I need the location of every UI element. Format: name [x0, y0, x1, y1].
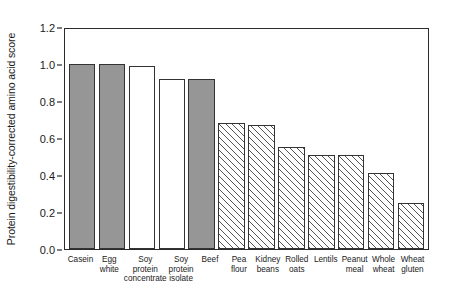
y-axis-tick-label: 0.4: [40, 170, 55, 182]
x-axis-labels: CaseinEggwhiteSoyproteinconcentrateSoypr…: [64, 252, 429, 306]
x-axis-label-line: Whole: [369, 255, 398, 265]
x-axis-label-pea-flour: Peaflour: [224, 252, 253, 306]
bars-container: [65, 29, 428, 249]
x-axis-label-wheat-gluten: Wheatgluten: [398, 252, 427, 306]
x-axis-label-line: Soy: [124, 255, 167, 265]
y-axis-tick-mark: [57, 139, 62, 140]
x-axis-label-line: beans: [253, 265, 282, 275]
bar-slot: [217, 29, 247, 249]
x-axis-label-line: white: [95, 265, 124, 275]
x-axis-label-line: wheat: [369, 265, 398, 275]
x-axis-label-line: Peanut: [340, 255, 369, 265]
x-axis-label-line: meal: [340, 265, 369, 275]
bar-slot: [366, 29, 396, 249]
y-axis-title: Protein digestibility-corrected amino ac…: [5, 33, 17, 245]
bar-egg-white: [99, 64, 125, 249]
y-axis-tick-label: 0.2: [40, 207, 55, 219]
y-axis-title-container: Protein digestibility-corrected amino ac…: [0, 28, 22, 250]
bar-soy-protein-concentrate: [129, 66, 155, 249]
bar-slot: [187, 29, 217, 249]
y-axis-tick-mark: [57, 176, 62, 177]
x-axis-label-line: Rolled: [282, 255, 311, 265]
x-axis-label-soy-protein-concentrate: Soyproteinconcentrate: [124, 252, 167, 306]
x-axis-label-line: protein: [124, 265, 167, 275]
bar-slot: [247, 29, 277, 249]
x-axis-label-lentils: Lentils: [311, 252, 340, 306]
x-axis-label-soy-protein-isolate: Soyproteinisolate: [167, 252, 196, 306]
x-axis-label-line: concentrate: [124, 274, 167, 284]
y-axis-tick-mark: [57, 213, 62, 214]
x-axis-label-line: protein: [167, 265, 196, 275]
x-axis-label-line: Casein: [66, 255, 95, 265]
x-axis-label-peanut-meal: Peanutmeal: [340, 252, 369, 306]
bar-casein: [69, 64, 95, 249]
bar-beef: [188, 79, 214, 249]
bar-slot: [396, 29, 426, 249]
bar-slot: [157, 29, 187, 249]
x-axis-label-line: Soy: [167, 255, 196, 265]
bar-slot: [336, 29, 366, 249]
y-axis-tick-label: 0.8: [40, 96, 55, 108]
x-axis-label-line: Beef: [196, 255, 225, 265]
x-axis-label-line: Lentils: [311, 255, 340, 265]
x-axis-label-rolled-oats: Rolledoats: [282, 252, 311, 306]
y-axis-tick-label: 0.0: [40, 244, 55, 256]
y-axis-tick-label: 1.0: [40, 59, 55, 71]
bar-pea-flour: [218, 123, 244, 249]
y-axis-ticks: 0.00.20.40.60.81.01.2: [22, 0, 62, 306]
y-axis-tick-label: 0.6: [40, 133, 55, 145]
bar-rolled-oats: [278, 147, 304, 249]
y-axis-tick-mark: [57, 65, 62, 66]
bar-slot: [127, 29, 157, 249]
x-axis-label-line: Pea: [224, 255, 253, 265]
x-axis-label-egg-white: Eggwhite: [95, 252, 124, 306]
x-axis-label-line: Wheat: [398, 255, 427, 265]
x-axis-label-casein: Casein: [66, 252, 95, 306]
bar-kidney-beans: [248, 125, 274, 249]
x-axis-label-line: oats: [282, 265, 311, 275]
x-axis-label-line: gluten: [398, 265, 427, 275]
y-axis-tick-mark: [57, 28, 62, 29]
bar-peanut-meal: [338, 155, 364, 249]
bar-whole-wheat: [368, 173, 394, 249]
bar-chart: Protein digestibility-corrected amino ac…: [0, 0, 458, 306]
bar-lentils: [308, 155, 334, 249]
y-axis-tick-label: 1.2: [40, 22, 55, 34]
x-axis-label-line: isolate: [167, 274, 196, 284]
x-axis-label-line: flour: [224, 265, 253, 275]
bar-slot: [67, 29, 97, 249]
y-axis-tick-mark: [57, 102, 62, 103]
bar-wheat-gluten: [398, 203, 424, 249]
x-axis-label-line: Kidney: [253, 255, 282, 265]
bar-slot: [97, 29, 127, 249]
x-axis-label-kidney-beans: Kidneybeans: [253, 252, 282, 306]
x-axis-label-beef: Beef: [196, 252, 225, 306]
bar-soy-protein-isolate: [159, 79, 185, 249]
bar-slot: [306, 29, 336, 249]
bar-slot: [276, 29, 306, 249]
y-axis-tick-mark: [57, 250, 62, 251]
x-axis-label-line: Egg: [95, 255, 124, 265]
plot-area: [64, 28, 429, 250]
x-axis-label-whole-wheat: Wholewheat: [369, 252, 398, 306]
